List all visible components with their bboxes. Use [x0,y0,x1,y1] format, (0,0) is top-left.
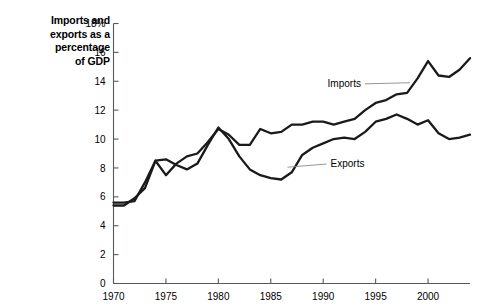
chart-figure: Imports and exports as a percentage of G… [0,0,482,307]
series-line-imports [114,58,471,205]
y-tick-label: 6 [100,191,106,202]
data-series-group [114,58,471,205]
y-tick-label: 12 [94,105,106,116]
annotation-label-exports: Exports [331,158,365,169]
y-tick-label: 10 [94,134,106,145]
x-tick-label: 1980 [207,291,230,302]
x-tick-label: 1970 [102,291,125,302]
series-line-exports [114,115,471,203]
annotation-leader-line [288,164,327,167]
x-tick-label: 1975 [155,291,178,302]
y-tick-label: 4 [100,220,106,231]
x-tick-label: 2000 [417,291,440,302]
annotation-leader-line [365,83,410,84]
y-tick-label: 16 [94,47,106,58]
y-tick-label: 18% [85,18,105,29]
annotation-label-imports: Imports [328,78,361,89]
y-tick-label: 14 [94,76,106,87]
x-tick-label: 1995 [365,291,388,302]
x-tick-label: 1990 [312,291,335,302]
x-tick-label: 1985 [260,291,283,302]
y-tick-label: 2 [100,249,106,260]
line-chart-plot: 024681012141618% 19701975198019851990199… [0,0,482,307]
y-tick-label: 8 [100,163,106,174]
y-tick-label: 0 [100,278,106,289]
x-axis-ticks: 1970197519801985199019952000 [102,279,439,302]
